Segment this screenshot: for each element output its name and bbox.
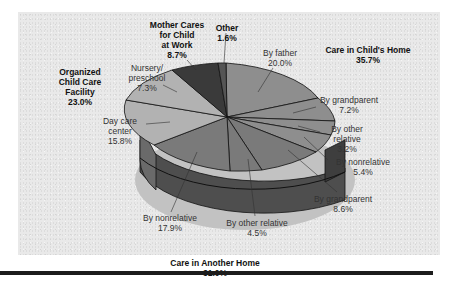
label-nursery-preschool: Nursery/ preschool 7.3% <box>117 63 177 93</box>
label-by-other-relative-another: By other relative 4.5% <box>217 218 297 238</box>
label-by-grandparent-child: By grandparent 7.2% <box>314 95 384 115</box>
label-group-other: Other 1.6% <box>212 23 242 43</box>
label-by-nonrelative-child: By nonrelative 5.4% <box>328 157 398 177</box>
label-group-mother: Mother Cares for Child at Work 8.7% <box>146 20 208 60</box>
label-group-another-home: Care in Another Home 31.0% <box>165 258 265 278</box>
label-by-nonrelative-another: By nonrelative 17.9% <box>135 213 205 233</box>
label-by-father: By father 20.0% <box>250 48 310 68</box>
label-by-grandparent-another: By grandparent 8.6% <box>308 194 378 214</box>
label-group-facility: Organized Child Care Facility 23.0% <box>50 67 110 107</box>
pie-chart <box>0 0 455 292</box>
label-by-other-relative-child: By other relative 3.2% <box>322 124 372 154</box>
label-group-childs-home: Care in Child's Home 35.7% <box>323 45 413 65</box>
label-day-care-center: Day care center 15.8% <box>95 116 145 146</box>
bottom-rule <box>0 271 433 275</box>
